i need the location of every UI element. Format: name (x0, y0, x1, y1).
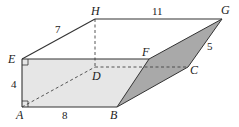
label-A: A (15, 108, 24, 122)
label-C: C (190, 63, 199, 77)
label-B: B (110, 108, 118, 122)
length-HG: 11 (152, 5, 163, 17)
prism-diagram: H G E F D C A B 7 11 5 4 8 (0, 0, 239, 127)
label-D: D (91, 69, 101, 83)
length-EA: 4 (11, 78, 17, 90)
length-AB: 8 (62, 109, 68, 121)
label-E: E (7, 52, 16, 66)
length-GC: 5 (207, 40, 213, 52)
length-EH: 7 (55, 23, 61, 35)
label-G: G (221, 3, 230, 17)
label-H: H (90, 4, 101, 18)
label-F: F (141, 45, 150, 59)
